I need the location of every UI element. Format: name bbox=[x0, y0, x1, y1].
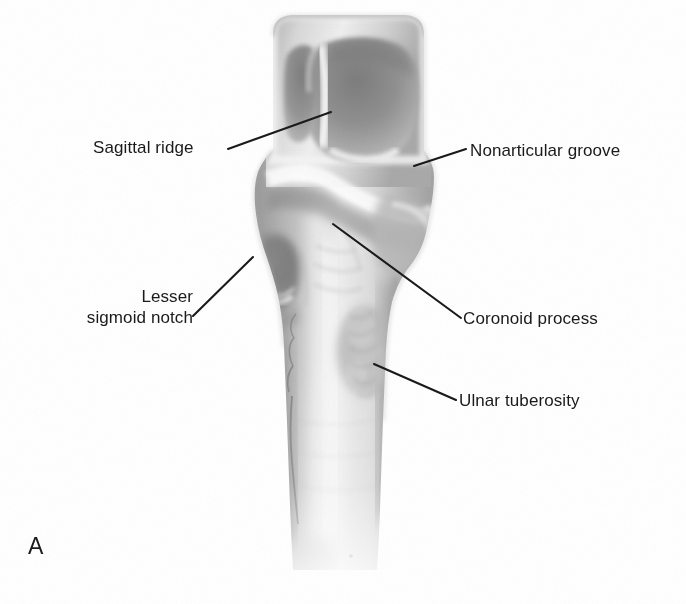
anatomical-figure: Sagittal ridge Nonarticular groove Lesse… bbox=[0, 0, 686, 604]
label-lesser-sigmoid-notch-line1: Lesser bbox=[141, 287, 193, 306]
ulnar-tuberosity-leader bbox=[374, 364, 456, 400]
panel-letter: A bbox=[28, 533, 43, 560]
label-coronoid-process: Coronoid process bbox=[463, 308, 598, 329]
label-sagittal-ridge: Sagittal ridge bbox=[93, 137, 194, 158]
label-ulnar-tuberosity: Ulnar tuberosity bbox=[459, 390, 580, 411]
lesser-sigmoid-notch-leader bbox=[193, 257, 253, 316]
label-lesser-sigmoid-notch-line2: sigmoid notch bbox=[43, 307, 193, 328]
label-lesser-sigmoid-notch: Lesser sigmoid notch bbox=[43, 286, 193, 328]
label-nonarticular-groove: Nonarticular groove bbox=[470, 140, 620, 161]
